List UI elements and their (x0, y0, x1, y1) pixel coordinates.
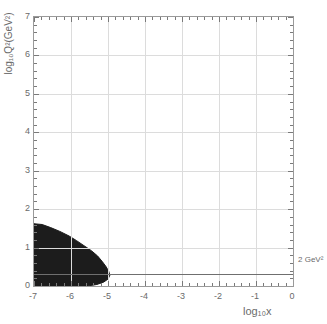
x-axis-tick-label: -6 (55, 292, 85, 301)
x-axis-tick (145, 281, 146, 286)
grid-line-vertical (71, 17, 72, 286)
grid-line-vertical (182, 17, 183, 286)
y-axis-tick-label: 3 (8, 166, 30, 175)
y-axis-tick (34, 155, 37, 156)
y-axis-tick (34, 71, 37, 72)
y-axis-tick (290, 178, 293, 179)
grid-line-vertical (256, 17, 257, 286)
x-axis-tick (71, 17, 72, 22)
x-axis-tick (86, 17, 87, 20)
x-axis-tick (138, 283, 139, 286)
x-axis-tick-label: -2 (203, 292, 233, 301)
x-axis-tick (123, 283, 124, 286)
x-axis-tick (182, 281, 183, 286)
y-axis-tick (34, 271, 37, 272)
x-axis-tick (64, 17, 65, 20)
x-axis-tick-label: -5 (92, 292, 122, 301)
x-axis-tick (86, 283, 87, 286)
x-axis-tick (123, 17, 124, 20)
x-axis-tick (93, 17, 94, 20)
x-axis-tick (101, 283, 102, 286)
y-axis-tick (34, 171, 39, 172)
y-axis-tick-label: 2 (8, 204, 30, 213)
y-axis-tick (34, 278, 37, 279)
x-axis-tick (249, 17, 250, 20)
x-axis-tick (175, 17, 176, 20)
data-region (34, 17, 293, 286)
x-axis-tick (286, 17, 287, 20)
x-axis-tick (234, 17, 235, 20)
y-axis-tick (288, 209, 293, 210)
y-axis-tick (34, 148, 37, 149)
y-axis-tick (288, 17, 293, 18)
y-axis-tick (290, 140, 293, 141)
grid-line-horizontal (34, 248, 293, 249)
y-axis-tick-label: 7 (8, 12, 30, 21)
x-axis-tick (41, 283, 42, 286)
y-axis-tick (290, 163, 293, 164)
x-axis-tick (152, 283, 153, 286)
x-axis-tick (271, 283, 272, 286)
y-axis-tick (34, 201, 37, 202)
y-axis-tick (34, 48, 37, 49)
y-axis-tick (34, 86, 37, 87)
y-axis-tick (34, 40, 37, 41)
y-axis-tick (34, 186, 37, 187)
grid-line-horizontal (34, 171, 293, 172)
y-axis-tick (288, 132, 293, 133)
x-axis-tick (167, 17, 168, 20)
y-axis-tick (290, 271, 293, 272)
x-axis-tick (278, 283, 279, 286)
y-axis-tick (34, 117, 37, 118)
x-axis-tick (204, 283, 205, 286)
x-axis-tick (219, 281, 220, 286)
y-axis-tick (290, 109, 293, 110)
y-axis-tick (34, 78, 37, 79)
y-axis-tick (34, 25, 37, 26)
x-axis-title: log₁₀x (243, 305, 271, 317)
threshold-annotation-2gev: 2 GeV² (298, 255, 323, 264)
x-axis-tick (138, 17, 139, 20)
y-axis-tick (34, 132, 39, 133)
x-axis-tick (108, 17, 109, 22)
x-axis-tick (256, 281, 257, 286)
x-axis-tick (241, 17, 242, 20)
x-axis-tick-label: 0 (277, 292, 307, 301)
y-axis-tick (288, 94, 293, 95)
x-axis-tick (271, 17, 272, 20)
x-axis-tick (256, 17, 257, 22)
x-axis-tick (78, 17, 79, 20)
y-axis-tick (290, 102, 293, 103)
grid-line-vertical (108, 17, 109, 286)
y-axis-tick (290, 86, 293, 87)
x-axis-tick (64, 283, 65, 286)
x-axis-tick (219, 17, 220, 22)
x-axis-tick (263, 283, 264, 286)
x-axis-tick-labels: -7-6-5-4-3-2-10 (33, 292, 294, 304)
x-axis-tick-label: -3 (166, 292, 196, 301)
x-axis-tick (71, 281, 72, 286)
x-axis-tick (278, 17, 279, 20)
x-axis-tick (130, 283, 131, 286)
x-axis-tick (152, 17, 153, 20)
y-axis-tick (288, 55, 293, 56)
y-axis-tick (290, 117, 293, 118)
x-axis-tick (197, 17, 198, 20)
y-axis-tick (288, 248, 293, 249)
x-axis-tick (145, 17, 146, 22)
grid-line-horizontal (34, 55, 293, 56)
x-axis-tick (189, 283, 190, 286)
y-axis-tick (34, 232, 37, 233)
grid-line-horizontal (34, 94, 293, 95)
x-axis-tick-label: -4 (129, 292, 159, 301)
x-axis-tick (56, 17, 57, 20)
y-axis-tick (290, 217, 293, 218)
y-axis-tick-label: 1 (8, 243, 30, 252)
y-axis-tick (34, 286, 39, 287)
threshold-reference-line (34, 274, 293, 275)
y-axis-tick (290, 32, 293, 33)
plot-area (33, 16, 294, 287)
x-axis-tick (212, 17, 213, 20)
x-axis-tick (197, 283, 198, 286)
x-axis-tick (226, 283, 227, 286)
